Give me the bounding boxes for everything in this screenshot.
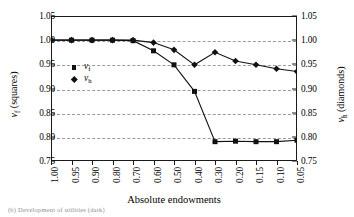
x-axis-tick-label: 0.20 — [235, 167, 245, 183]
y-axis-left-subscript: f — [14, 111, 22, 113]
y-axis-right-tick-label: 0.95 — [301, 59, 317, 69]
x-axis-tick-mark — [133, 161, 134, 165]
data-point-diamond — [150, 39, 157, 46]
data-point-square — [295, 138, 298, 143]
chart-figure: 1.051.000.950.900.850.800.75 1.051.000.9… — [0, 0, 354, 217]
diamond-marker-icon — [69, 73, 79, 85]
data-point-diamond — [294, 68, 297, 75]
x-axis-tick-label: 0.40 — [194, 167, 204, 183]
x-axis-tick-label: 0.50 — [173, 167, 183, 183]
data-point-square — [151, 48, 156, 53]
y-axis-right-tick-label: 1.00 — [301, 35, 317, 45]
x-axis-tick-mark — [92, 161, 93, 165]
x-axis-tick-mark — [277, 161, 278, 165]
x-axis-tick-label: 0.30 — [214, 167, 224, 183]
y-axis-right-tick-mark — [292, 40, 297, 41]
y-axis-right-tick-label: 0.75 — [301, 156, 317, 166]
x-axis-tick-mark — [215, 161, 216, 165]
y-axis-right-tick-mark — [292, 64, 297, 65]
x-axis-tick-mark — [174, 161, 175, 165]
x-axis-tick-mark — [113, 161, 114, 165]
y-axis-left-variable: v — [8, 113, 19, 117]
x-axis-tick-mark — [51, 161, 52, 165]
x-axis-tick-label: 0.60 — [153, 167, 163, 183]
x-axis-tick-label: 1.00 — [50, 167, 60, 183]
x-axis-tick-mark — [72, 161, 73, 165]
x-axis-label: Absolute endowments — [51, 194, 297, 205]
y-axis-right-tick-label: 0.80 — [301, 132, 317, 142]
x-axis-tick-mark — [297, 161, 298, 165]
y-axis-left-tick-mark — [51, 16, 55, 17]
y-axis-right-tick-label: 1.05 — [301, 11, 317, 21]
x-axis-tick-mark — [256, 161, 257, 165]
series-line-vf — [51, 40, 297, 142]
data-point-diamond — [253, 62, 260, 69]
y-axis-right-tick-mark — [292, 88, 297, 89]
y-axis-right-tick-label: 0.90 — [301, 84, 317, 94]
x-axis-tick-label: 0.90 — [91, 167, 101, 183]
series-markers-vf — [51, 38, 297, 145]
data-point-diamond — [212, 49, 219, 56]
y-axis-right-label: vh (diamonds) — [335, 44, 348, 146]
y-axis-right-suffix: (diamonds) — [335, 66, 346, 114]
square-marker-icon — [69, 61, 79, 73]
y-axis-right-variable: v — [335, 118, 346, 122]
data-point-diamond — [273, 65, 280, 72]
series-layer — [51, 16, 297, 161]
data-point-square — [172, 62, 177, 67]
y-axis-right-subscript: h — [341, 115, 349, 119]
x-axis-tick-label: 0.05 — [296, 167, 306, 183]
y-axis-left-tick-mark — [51, 40, 55, 41]
y-axis-left-suffix: (squares) — [8, 72, 19, 111]
data-point-square — [274, 139, 279, 144]
figure-caption: (b) Development of utilities (dark) — [8, 206, 105, 213]
x-axis-tick-mark — [236, 161, 237, 165]
x-axis-tick-mark — [154, 161, 155, 165]
y-axis-left-tick-mark — [51, 88, 55, 89]
data-point-diamond — [232, 58, 239, 65]
data-point-square — [192, 89, 197, 94]
legend-item-vh: vh — [69, 73, 92, 85]
legend-label-vh: vh — [84, 72, 92, 87]
y-axis-left-tick-mark — [51, 64, 55, 65]
x-axis-tick-label: 0.80 — [112, 167, 122, 183]
x-axis-tick-label: 0.70 — [132, 167, 142, 183]
x-axis-tick-label: 0.95 — [71, 167, 81, 183]
y-axis-right-tick-mark — [292, 16, 297, 17]
data-point-square — [213, 139, 218, 144]
y-axis-right-tick-mark — [292, 112, 297, 113]
x-axis-tick-label: 0.10 — [276, 167, 286, 183]
y-axis-right-tick-label: 0.85 — [301, 108, 317, 118]
y-axis-right-tick-mark — [292, 136, 297, 137]
x-axis-tick-mark — [195, 161, 196, 165]
data-point-square — [254, 139, 259, 144]
chart-legend: vf vh — [69, 61, 92, 85]
y-axis-left-label: vf (squares) — [8, 47, 21, 143]
data-point-square — [233, 139, 238, 144]
y-axis-left-tick-mark — [51, 112, 55, 113]
x-axis-tick-label: 0.15 — [255, 167, 265, 183]
y-axis-left-tick-mark — [51, 136, 55, 137]
